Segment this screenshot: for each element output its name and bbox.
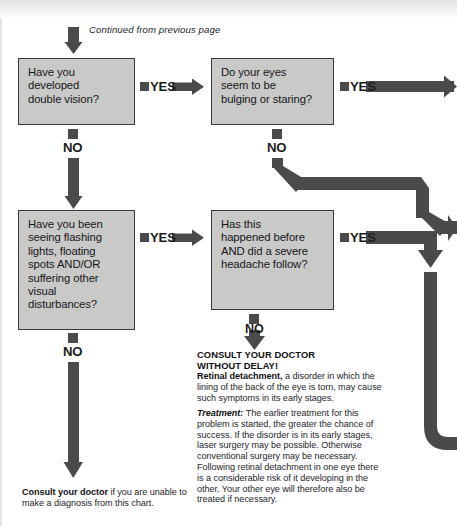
advice-treatment-paragraph: Treatment: The earlier treatment for thi… [197,408,382,505]
continued-from-previous-page-label: Continued from previous page [89,24,220,35]
q1-line-3: double vision? [28,93,128,106]
q1-line-1: Have you [28,66,128,79]
q2-line-3: bulging or staring? [221,93,327,106]
q4-line-3: AND did a severe [221,245,327,258]
question-box-bulging-eyes[interactable]: Do your eyes seem to be bulging or stari… [211,58,334,125]
entry-arrow-icon [65,27,83,54]
advice-heading-line-1: CONSULT YOUR DOCTOR [197,350,382,361]
q3-line-6: visual [28,285,128,298]
q4-line-4: headache follow? [221,258,327,271]
question-box-2-text: Do your eyes seem to be bulging or stari… [221,66,327,106]
advice-retinal-lead: Retinal detachment, [197,371,282,381]
advice-heading-line-2: WITHOUT DELAY! [197,361,382,372]
q1-line-2: developed [28,79,128,92]
question-box-1-text: Have you developed double vision? [28,66,128,106]
advice-bottom-lead: Consult your doctor [22,487,108,497]
edge-label-no-q1: NO [63,140,82,155]
q3-line-4: spots AND/OR [28,258,128,271]
question-box-3-text: Have you been seeing flashing lights, fl… [28,218,128,312]
edge-label-yes-q2: YES [350,79,376,94]
edge-label-no-q3: NO [63,344,82,359]
q3-line-2: seeing flashing [28,231,128,244]
edge-label-no-q4: NO [245,322,264,336]
edge-label-yes-q1: YES [150,79,176,94]
question-box-double-vision[interactable]: Have you developed double vision? [18,58,135,125]
question-box-visual-disturbances[interactable]: Have you been seeing flashing lights, fl… [18,210,135,330]
q2-line-1: Do your eyes [221,66,327,79]
advice-retinal-paragraph: Retinal detachment, a disorder in which … [197,371,382,403]
advice-treatment-body: The earlier treatment for this problem i… [197,408,378,504]
edge-label-yes-q4: YES [350,230,376,245]
q4-line-1: Has this [221,218,327,231]
q3-line-1: Have you been [28,218,128,231]
edge-label-no-q2: NO [267,140,286,155]
advice-retinal-detachment: CONSULT YOUR DOCTOR WITHOUT DELAY! Retin… [197,350,382,505]
flowchart-page: Continued from previous page Have you de… [0,0,457,526]
q3-line-5: suffering other [28,272,128,285]
q2-line-2: seem to be [221,79,327,92]
q3-line-3: lights, floating [28,245,128,258]
edge-label-yes-q3: YES [150,230,176,245]
q4-line-2: happened before [221,231,327,244]
question-box-4-text: Has this happened before AND did a sever… [221,218,327,272]
q3-line-7: disturbances? [28,298,128,311]
question-box-headache-history[interactable]: Has this happened before AND did a sever… [211,210,334,310]
advice-treatment-label: Treatment: [197,408,243,418]
advice-consult-doctor-bottom: Consult your doctor if you are unable to… [22,487,192,509]
